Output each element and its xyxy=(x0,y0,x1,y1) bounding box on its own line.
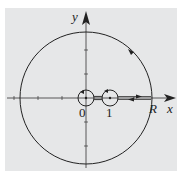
point-origin xyxy=(85,97,87,99)
origin-label: 0 xyxy=(79,105,86,120)
x-axis-label: x xyxy=(166,101,173,116)
keyhole-contour-diagram: y x 0 1 R xyxy=(0,0,182,171)
y-axis-label: y xyxy=(70,9,78,24)
point-one xyxy=(109,97,111,99)
radius-label: R xyxy=(148,101,157,116)
one-label: 1 xyxy=(106,105,113,120)
